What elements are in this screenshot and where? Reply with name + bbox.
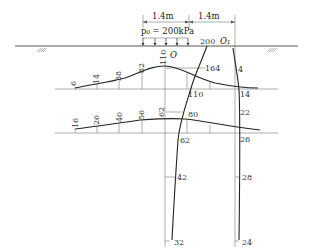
depth1-value-38: 38 (114, 71, 123, 81)
depth1-value-110: 110 (159, 50, 168, 65)
center-value-164: 164 (205, 64, 220, 73)
stress-distribution-diagram: 1.4m 1.4m p₀ = 200kPa O 200 O₁ (0, 0, 310, 249)
edge-value-22: 22 (240, 108, 250, 117)
origin1-label: O₁ (220, 36, 230, 46)
edge-vertical-stress-curve (233, 48, 240, 240)
center-value-32: 32 (174, 238, 184, 247)
center-value-42: 42 (177, 173, 187, 182)
edge-value-14: 14 (240, 90, 250, 99)
depth1-value-6: 6 (69, 81, 78, 86)
edge-value-24: 24 (242, 238, 252, 247)
edge-value-4: 4 (238, 65, 243, 74)
depth2-value-16: 16 (71, 118, 80, 128)
edge-value-26: 26 (240, 135, 250, 144)
depth2-value-40: 40 (115, 112, 124, 122)
depth1-stress-curve (75, 66, 258, 88)
edge-value-28: 28 (242, 173, 252, 182)
depth2-value-26: 26 (92, 115, 101, 125)
depth2-value-62: 62 (157, 107, 166, 117)
center-value-62: 62 (180, 136, 190, 145)
depth2-value-80: 80 (188, 110, 198, 119)
dimension-right-label: 1.4m (198, 11, 220, 21)
depth1-value-82: 82 (137, 63, 146, 73)
load-label: p₀ = 200kPa (141, 26, 194, 36)
load-arrows (142, 38, 190, 46)
depth1-value-14: 14 (92, 74, 101, 84)
ground-hatch-right (267, 48, 277, 52)
depth2-value-56: 56 (137, 110, 146, 120)
origin-label: O (170, 50, 177, 60)
dimension-left-label: 1.4m (152, 11, 174, 21)
ground-hatch-left (37, 48, 47, 52)
surface-value-label: 200 (200, 37, 215, 46)
depth2-stress-curve (75, 119, 260, 130)
